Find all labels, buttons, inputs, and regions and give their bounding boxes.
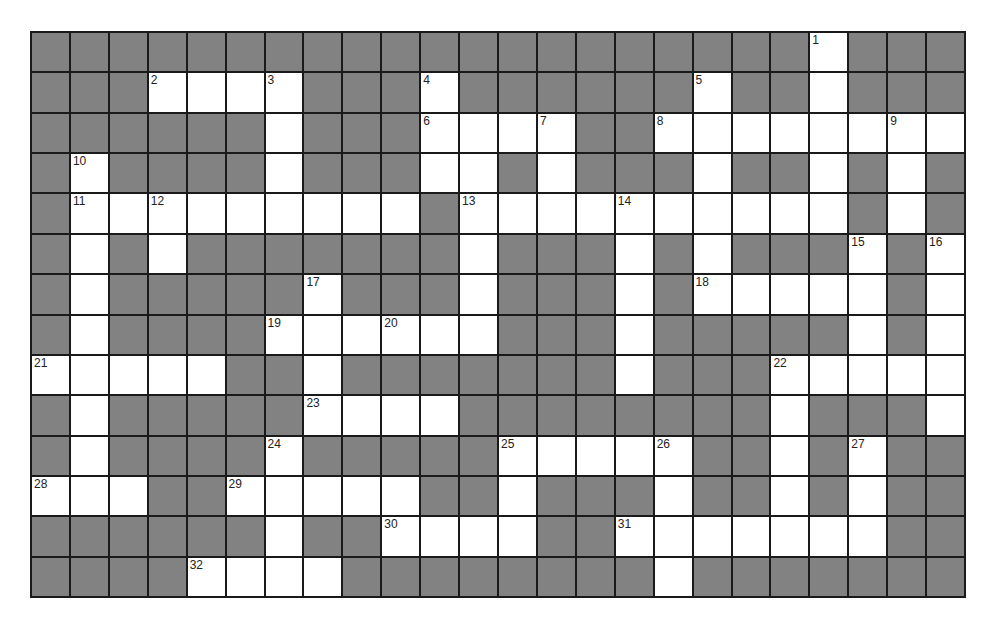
crossword-cell[interactable]: 5: [694, 73, 731, 111]
crossword-cell[interactable]: [382, 194, 419, 232]
crossword-cell[interactable]: [227, 558, 264, 596]
crossword-cell[interactable]: 29: [227, 477, 264, 515]
crossword-cell[interactable]: 18: [694, 275, 731, 313]
crossword-cell[interactable]: [577, 437, 614, 475]
crossword-cell[interactable]: [616, 356, 653, 394]
crossword-cell[interactable]: [538, 154, 575, 192]
crossword-cell[interactable]: [694, 194, 731, 232]
crossword-cell[interactable]: [110, 356, 147, 394]
crossword-cell[interactable]: [616, 437, 653, 475]
crossword-cell[interactable]: [849, 114, 886, 152]
crossword-cell[interactable]: [655, 477, 692, 515]
crossword-cell[interactable]: 10: [71, 154, 108, 192]
crossword-cell[interactable]: [927, 114, 964, 152]
crossword-cell[interactable]: [343, 477, 380, 515]
crossword-cell[interactable]: [382, 477, 419, 515]
crossword-cell[interactable]: [266, 194, 303, 232]
crossword-cell[interactable]: [927, 356, 964, 394]
crossword-cell[interactable]: [771, 396, 808, 434]
crossword-cell[interactable]: [616, 275, 653, 313]
crossword-cell[interactable]: [71, 275, 108, 313]
crossword-cell[interactable]: 25: [499, 437, 536, 475]
crossword-cell[interactable]: 13: [460, 194, 497, 232]
crossword-cell[interactable]: [733, 194, 770, 232]
crossword-cell[interactable]: 15: [849, 235, 886, 273]
crossword-cell[interactable]: [616, 235, 653, 273]
crossword-cell[interactable]: [577, 194, 614, 232]
crossword-cell[interactable]: 27: [849, 437, 886, 475]
crossword-cell[interactable]: [266, 558, 303, 596]
crossword-cell[interactable]: [810, 356, 847, 394]
crossword-cell[interactable]: 2: [149, 73, 186, 111]
crossword-cell[interactable]: [421, 517, 458, 555]
crossword-cell[interactable]: [421, 154, 458, 192]
crossword-cell[interactable]: [810, 114, 847, 152]
crossword-cell[interactable]: 23: [304, 396, 341, 434]
crossword-cell[interactable]: [71, 437, 108, 475]
crossword-cell[interactable]: [849, 356, 886, 394]
crossword-cell[interactable]: [460, 114, 497, 152]
crossword-cell[interactable]: [733, 114, 770, 152]
crossword-cell[interactable]: [810, 517, 847, 555]
crossword-cell[interactable]: [849, 517, 886, 555]
crossword-cell[interactable]: [538, 194, 575, 232]
crossword-cell[interactable]: [810, 73, 847, 111]
crossword-cell[interactable]: [655, 194, 692, 232]
crossword-cell[interactable]: [810, 154, 847, 192]
crossword-cell[interactable]: [304, 194, 341, 232]
crossword-cell[interactable]: 31: [616, 517, 653, 555]
crossword-cell[interactable]: 8: [655, 114, 692, 152]
crossword-cell[interactable]: [849, 275, 886, 313]
crossword-cell[interactable]: 9: [888, 114, 925, 152]
crossword-cell[interactable]: [304, 558, 341, 596]
crossword-cell[interactable]: 32: [188, 558, 225, 596]
crossword-cell[interactable]: [188, 356, 225, 394]
crossword-cell[interactable]: 1: [810, 33, 847, 71]
crossword-cell[interactable]: [849, 477, 886, 515]
crossword-cell[interactable]: [499, 477, 536, 515]
crossword-cell[interactable]: [110, 477, 147, 515]
crossword-cell[interactable]: [71, 477, 108, 515]
crossword-cell[interactable]: [655, 558, 692, 596]
crossword-cell[interactable]: [694, 114, 731, 152]
crossword-cell[interactable]: [110, 194, 147, 232]
crossword-cell[interactable]: [71, 356, 108, 394]
crossword-cell[interactable]: [460, 275, 497, 313]
crossword-cell[interactable]: 12: [149, 194, 186, 232]
crossword-cell[interactable]: [460, 517, 497, 555]
crossword-cell[interactable]: [227, 73, 264, 111]
crossword-cell[interactable]: [149, 235, 186, 273]
crossword-cell[interactable]: 16: [927, 235, 964, 273]
crossword-cell[interactable]: [927, 275, 964, 313]
crossword-cell[interactable]: [733, 517, 770, 555]
crossword-cell[interactable]: [460, 316, 497, 354]
crossword-cell[interactable]: [460, 154, 497, 192]
crossword-cell[interactable]: [810, 194, 847, 232]
crossword-cell[interactable]: [771, 437, 808, 475]
crossword-cell[interactable]: [694, 517, 731, 555]
crossword-cell[interactable]: 3: [266, 73, 303, 111]
crossword-cell[interactable]: [499, 114, 536, 152]
crossword-cell[interactable]: [616, 316, 653, 354]
crossword-cell[interactable]: 7: [538, 114, 575, 152]
crossword-cell[interactable]: [71, 235, 108, 273]
crossword-cell[interactable]: [266, 154, 303, 192]
crossword-cell[interactable]: [266, 517, 303, 555]
crossword-cell[interactable]: [888, 154, 925, 192]
crossword-cell[interactable]: [771, 477, 808, 515]
crossword-cell[interactable]: [304, 477, 341, 515]
crossword-cell[interactable]: [188, 73, 225, 111]
crossword-cell[interactable]: [304, 356, 341, 394]
crossword-cell[interactable]: [888, 194, 925, 232]
crossword-cell[interactable]: [771, 275, 808, 313]
crossword-cell[interactable]: [771, 194, 808, 232]
crossword-cell[interactable]: [227, 194, 264, 232]
crossword-cell[interactable]: [927, 396, 964, 434]
crossword-cell[interactable]: [694, 154, 731, 192]
crossword-cell[interactable]: [382, 396, 419, 434]
crossword-cell[interactable]: [343, 396, 380, 434]
crossword-cell[interactable]: 19: [266, 316, 303, 354]
crossword-cell[interactable]: [343, 316, 380, 354]
crossword-cell[interactable]: 30: [382, 517, 419, 555]
crossword-cell[interactable]: [460, 235, 497, 273]
